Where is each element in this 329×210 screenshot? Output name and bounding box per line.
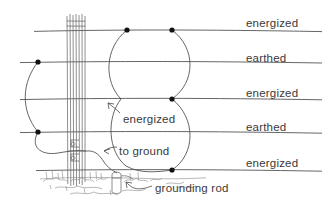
loop-upper-left [109, 30, 127, 99]
diagram-canvas: .wire { fill:none; stroke:#555; stroke-w… [0, 0, 329, 210]
utility-pole [67, 14, 87, 186]
right-jumper-wire-lower [111, 99, 190, 172]
conductor-label-4: earthed [246, 122, 286, 134]
ground-line [40, 177, 206, 179]
jumper-left-upper [25, 62, 38, 132]
annotation-label-to-ground: to ground [119, 146, 169, 158]
junction-dot [169, 167, 174, 172]
conductor-label-1: energized [246, 18, 298, 30]
loop-upper-right [172, 30, 190, 99]
junction-dot [169, 96, 174, 101]
junction-dot [35, 59, 40, 64]
junction-dot [169, 27, 174, 32]
leader-to-ground-arrowhead [104, 149, 110, 154]
conductor-line-5 [36, 170, 322, 172]
sketch-svg: .wire { fill:none; stroke:#555; stroke-w… [0, 0, 329, 210]
right-jumper-wire-upper [109, 30, 190, 99]
annotation-label-energized: energized [123, 114, 175, 126]
conductor-label-3: energized [246, 88, 298, 100]
annotation-label-grounding-rod: grounding rod [155, 183, 229, 195]
jumper-left-to-ground [35, 132, 86, 154]
junction-dot [124, 27, 129, 32]
conductor-label-2: earthed [246, 53, 286, 65]
loop-lower-close [126, 166, 172, 172]
junction-dot [35, 129, 40, 134]
conductor-label-5: energized [246, 158, 298, 170]
conductor-line-1 [34, 30, 322, 32]
loop-lower-right [172, 99, 190, 170]
